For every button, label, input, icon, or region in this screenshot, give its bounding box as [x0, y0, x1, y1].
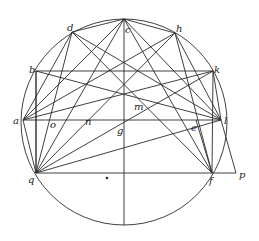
segment-q-a	[23, 120, 36, 173]
label-q: q	[28, 174, 34, 185]
label-a: a	[13, 115, 19, 126]
segment-c-h	[124, 19, 175, 33]
label-e: e	[191, 122, 197, 133]
label-l: l	[224, 115, 227, 126]
center-mark-dot	[106, 177, 109, 180]
label-g: g	[117, 125, 123, 136]
label-k: k	[214, 64, 220, 75]
segment-c-f	[124, 19, 212, 173]
label-h: h	[176, 23, 182, 34]
segment-q-h	[36, 33, 175, 173]
label-o: o	[50, 119, 56, 130]
segment-l-b	[36, 71, 221, 120]
segment-h-f	[175, 33, 212, 173]
segment-l-p	[221, 120, 236, 173]
segment-a-h	[23, 33, 175, 120]
segment-q-c	[36, 19, 124, 173]
segment-a-d	[23, 32, 72, 120]
segment-d-c	[72, 19, 124, 32]
label-c: c	[125, 24, 131, 35]
label-p: p	[239, 169, 246, 180]
label-n: n	[85, 116, 91, 127]
geometric-diagram: abdchklegonmqfp	[0, 0, 259, 241]
label-f: f	[208, 175, 215, 186]
label-b: b	[29, 64, 35, 75]
label-m: m	[134, 101, 143, 112]
segment-q-k	[36, 71, 213, 173]
label-d: d	[67, 22, 73, 33]
